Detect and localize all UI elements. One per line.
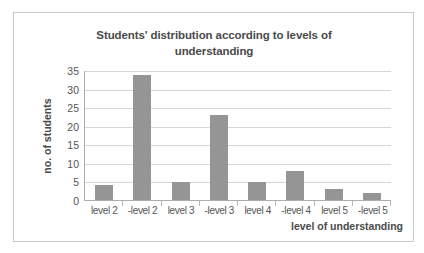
bar-series [85, 71, 391, 200]
x-tick-label: level 5 [315, 205, 353, 216]
bar[interactable] [95, 185, 113, 200]
bar[interactable] [248, 182, 266, 200]
chart-title: Students' distribution according to leve… [54, 27, 374, 59]
bar[interactable] [363, 193, 381, 200]
x-tick-label: -level 3 [200, 205, 238, 216]
y-tick-label: 0 [73, 195, 79, 207]
x-tick-label: -level 4 [277, 205, 315, 216]
y-tick-label: 20 [67, 121, 79, 133]
bar-slot [123, 71, 161, 200]
x-tick-label: -level 2 [123, 205, 161, 216]
y-axis-title-label: no. of students [41, 98, 53, 173]
bar[interactable] [325, 189, 343, 200]
bar-slot [200, 71, 238, 200]
x-tick-label: level 3 [162, 205, 200, 216]
plot-area: 05101520253035 [84, 71, 391, 201]
y-tick-label: 25 [67, 102, 79, 114]
bar-slot [353, 71, 391, 200]
chart-title-line-2: understanding [54, 43, 374, 59]
y-tick-label: 5 [73, 176, 79, 188]
bar[interactable] [286, 171, 304, 200]
y-tick-label: 10 [67, 158, 79, 170]
chart-title-line-1: Students' distribution according to leve… [54, 27, 374, 43]
chart-container: Students' distribution according to leve… [13, 12, 414, 242]
y-tick-label: 15 [67, 139, 79, 151]
x-axis-title: level of understanding [291, 220, 403, 232]
x-tick-label: -level 5 [354, 205, 392, 216]
x-tick-label: level 4 [239, 205, 277, 216]
bar-slot [85, 71, 123, 200]
y-tick-label: 35 [67, 65, 79, 77]
bar[interactable] [133, 75, 151, 200]
x-tick-label: level 2 [85, 205, 123, 216]
bar[interactable] [172, 182, 190, 200]
x-tick-labels: level 2-level 2level 3-level 3level 4-le… [85, 205, 392, 216]
y-axis-title: no. of students [40, 71, 54, 201]
bar[interactable] [210, 115, 228, 200]
bar-slot [162, 71, 200, 200]
bar-slot [276, 71, 314, 200]
bar-slot [315, 71, 353, 200]
bar-slot [238, 71, 276, 200]
y-tick-label: 30 [67, 84, 79, 96]
